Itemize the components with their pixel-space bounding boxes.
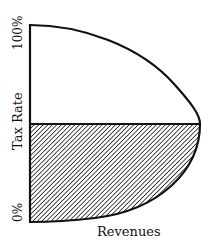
x-axis-label: Revenues <box>97 224 161 239</box>
y-tick-top: 100% <box>11 16 25 50</box>
upper-region <box>30 25 200 124</box>
lower-region-hatched <box>30 124 200 222</box>
laffer-chart: 100% Tax Rate 0% Revenues <box>0 0 211 244</box>
y-axis-label: Tax Rate <box>10 92 25 150</box>
y-tick-bottom: 0% <box>11 203 25 222</box>
